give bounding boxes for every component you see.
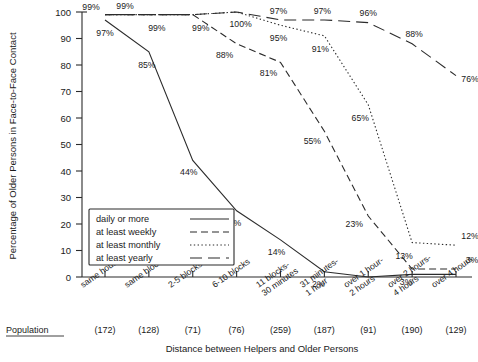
point-label: 65%	[352, 113, 370, 123]
point-label: 88%	[216, 50, 234, 60]
y-tick-label: 10	[60, 245, 71, 256]
line-chart: Percentage of Older Persons in Face-to-F…	[0, 0, 478, 362]
chart-container: Percentage of Older Persons in Face-to-F…	[0, 0, 478, 362]
y-tick-label: 30	[60, 192, 71, 203]
y-axis-title: Percentage of Older Persons in Face-to-F…	[7, 32, 18, 259]
y-axis: 100 90 80 70 60 50 40 30 20 10 0	[55, 7, 87, 283]
y-tick-label: 90	[60, 33, 71, 44]
y-tick-label: 60	[60, 113, 71, 124]
x-category-label: over 4 hours	[429, 254, 474, 290]
y-axis-ticks	[76, 12, 82, 277]
point-label: 97%	[270, 6, 288, 16]
point-label: 14%	[268, 247, 286, 257]
population-value: (128)	[138, 325, 159, 335]
population-value: (259)	[270, 325, 291, 335]
population-value: (76)	[229, 325, 245, 335]
point-label: 55%	[304, 136, 322, 146]
population-value: (129)	[445, 325, 466, 335]
y-tick-label: 40	[60, 166, 71, 177]
y-tick-label: 0	[66, 272, 71, 283]
point-label: 100%	[230, 19, 252, 29]
population-value: (91)	[360, 325, 376, 335]
population-row: Population (172)(128)(71)(76)(259)(187)(…	[6, 325, 467, 336]
y-axis-title-text: Percentage of Older Persons in Face-to-F…	[7, 32, 18, 259]
point-label: 12%	[461, 231, 478, 241]
population-value: (190)	[402, 325, 423, 335]
point-label: 88%	[405, 29, 423, 39]
x-axis-title: Distance between Helpers and Older Perso…	[166, 343, 359, 354]
series-line-at-least-yearly	[105, 12, 456, 76]
x-category-label: 11 blocks-30 minutes	[254, 257, 300, 298]
point-label: 96%	[360, 8, 378, 18]
y-tick-label: 20	[60, 219, 71, 230]
population-label: Population	[6, 325, 49, 335]
population-value: (71)	[185, 325, 201, 335]
population-values: (172)(128)(71)(76)(259)(187)(91)(190)(12…	[94, 325, 466, 335]
point-label: 91%	[312, 44, 330, 54]
legend-item-at-least-monthly: at least monthly	[96, 240, 161, 250]
legend: daily or more at least weekly at least m…	[89, 209, 234, 265]
y-axis-tick-labels: 100 90 80 70 60 50 40 30 20 10 0	[55, 7, 71, 283]
point-label: 97%	[96, 28, 114, 38]
legend-item-at-least-yearly: at least yearly	[96, 253, 153, 263]
population-value: (187)	[314, 325, 335, 335]
y-tick-label: 100	[55, 7, 71, 18]
point-label: 99%	[82, 2, 100, 12]
point-label: 85%	[138, 60, 156, 70]
point-label: 44%	[180, 167, 198, 177]
point-label: 76%	[461, 74, 478, 84]
point-label: 81%	[260, 68, 278, 78]
point-label: 99%	[148, 23, 166, 33]
point-label: 23%	[346, 219, 364, 229]
y-tick-label: 50	[60, 139, 71, 150]
point-label: 99%	[192, 23, 210, 33]
point-label: 97%	[314, 6, 332, 16]
y-tick-label: 80	[60, 60, 71, 71]
legend-item-at-least-weekly: at least weekly	[96, 227, 157, 237]
point-label: 95%	[270, 33, 288, 43]
x-category-line: over 4 hours	[429, 254, 474, 290]
point-label: 99%	[116, 1, 134, 11]
legend-item-daily-or-more: daily or more	[96, 214, 149, 224]
y-tick-label: 70	[60, 86, 71, 97]
point-label: 13%	[395, 251, 413, 261]
population-value: (172)	[94, 325, 115, 335]
